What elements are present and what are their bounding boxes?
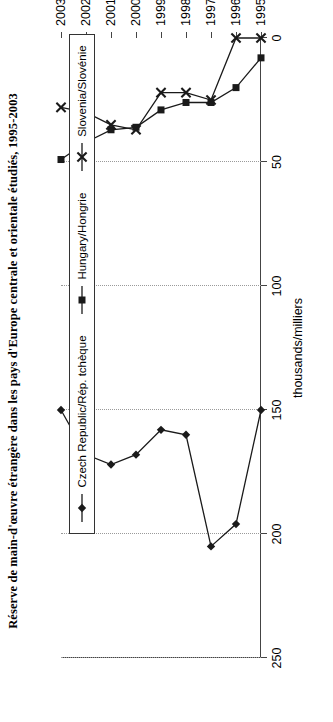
value-tick-label-50: 50 — [270, 155, 284, 169]
legend-marker-filled-square-icon — [76, 285, 88, 315]
series-1-point-1995 — [258, 54, 265, 61]
legend-label-2: Slovenia/Slovénie — [76, 45, 88, 136]
value-tick-label-200: 200 — [270, 524, 284, 545]
legend-item-1[interactable]: Hungary/Hongrie — [76, 193, 88, 315]
series-0-point-1995 — [257, 406, 265, 414]
chart-page: Réserve de main-d'œuvre étrangère dans l… — [0, 0, 333, 722]
value-tick-label-150: 150 — [270, 400, 284, 421]
value-tick-label-250: 250 — [270, 648, 284, 669]
legend-rotation-wrapper: Czech Republic/Rép. tchèqueHungary/Hongr… — [69, 34, 95, 534]
value-tick-50 — [261, 161, 267, 162]
page-title-container: Réserve de main-d'œuvre étrangère dans l… — [0, 0, 26, 722]
chart-legend: Czech Republic/Rép. tchèqueHungary/Hongr… — [69, 34, 95, 534]
series-1-point-1999 — [158, 106, 165, 113]
y-axis-title: thousands/milliers — [291, 298, 305, 398]
legend-marker-cross-star-icon — [76, 142, 88, 172]
legend-item-2[interactable]: Slovenia/Slovénie — [76, 45, 88, 171]
series-0-point-2001 — [107, 460, 115, 468]
legend-marker-filled-diamond-icon — [76, 493, 88, 523]
value-tick-label-0: 0 — [270, 35, 284, 42]
value-tick-250 — [261, 657, 267, 658]
series-0-point-2003 — [57, 406, 65, 414]
value-tick-label-100: 100 — [270, 276, 284, 297]
series-1-point-1998 — [183, 99, 190, 106]
series-1-point-2003 — [58, 156, 65, 163]
value-tick-200 — [261, 533, 267, 534]
series-0-point-1998 — [182, 431, 190, 439]
page-title: Réserve de main-d'œuvre étrangère dans l… — [6, 93, 21, 629]
legend-item-0[interactable]: Czech Republic/Rép. tchèque — [76, 335, 88, 522]
legend-label-1: Hungary/Hongrie — [76, 193, 88, 280]
value-tick-100 — [261, 285, 267, 286]
legend-label-0: Czech Republic/Rép. tchèque — [76, 335, 88, 487]
series-1-point-1996 — [233, 84, 240, 91]
